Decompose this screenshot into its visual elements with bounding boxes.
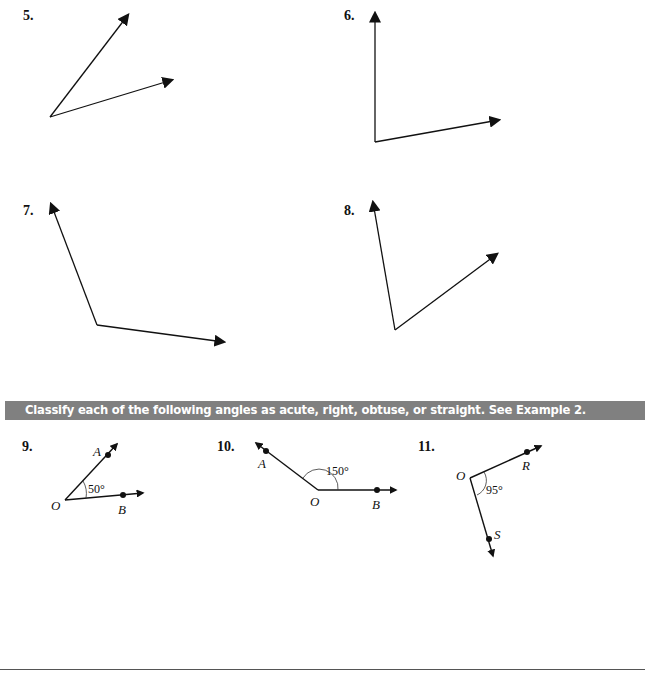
angle-11-point-s-label: S bbox=[494, 527, 501, 543]
angle-10-vertex-label: O bbox=[310, 494, 319, 510]
angle-6-diagram bbox=[375, 13, 499, 142]
problem-number-11: 11. bbox=[418, 439, 435, 455]
angle-11-measure: 95° bbox=[486, 483, 503, 498]
angle-9-vertex-label: O bbox=[51, 498, 60, 514]
angle-11-point-r-label: R bbox=[522, 458, 530, 474]
angle-7-diagram bbox=[51, 204, 224, 342]
angle-9-point-a-label: A bbox=[93, 444, 101, 460]
angle-5-diagram bbox=[50, 15, 172, 117]
angle-11-diagram bbox=[470, 446, 541, 556]
angle-11-vertex-label: O bbox=[456, 468, 465, 484]
page-bottom-rule bbox=[0, 669, 645, 670]
section-instruction-banner: Classify each of the following angles as… bbox=[5, 401, 645, 420]
problem-number-9: 9. bbox=[22, 439, 33, 455]
angle-10-measure: 150° bbox=[326, 464, 349, 479]
problem-number-10: 10. bbox=[217, 439, 235, 455]
angle-diagrams-top bbox=[0, 0, 645, 400]
angle-9-measure: 50° bbox=[88, 482, 105, 497]
angle-10-point-b-label: B bbox=[372, 497, 380, 513]
angle-9-point-b-label: B bbox=[118, 502, 126, 518]
angle-10-point-a-label: A bbox=[258, 456, 266, 472]
angle-8-diagram bbox=[373, 202, 497, 330]
